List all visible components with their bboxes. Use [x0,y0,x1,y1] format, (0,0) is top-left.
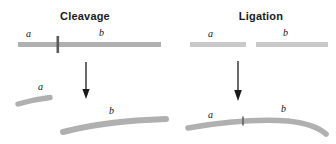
ligation-top-strand-b [256,42,328,47]
cleavage-top-strand-group [18,36,161,53]
label-cleavage-top-b: b [99,27,104,38]
ligation-arrow [234,61,242,101]
label-cleavage-product-a: a [38,81,43,92]
figure-canvas: Cleavage Ligation [0,0,336,144]
label-cleavage-product-b: b [109,105,114,116]
cleavage-arrow [82,62,89,99]
cleavage-product-a [18,98,50,105]
label-ligation-joined-a: a [208,109,213,120]
cleavage-site-tick [57,36,60,53]
label-ligation-top-a: a [208,28,213,39]
cleavage-top-strand [18,42,161,47]
label-cleavage-top-a: a [26,28,31,39]
strand-diagram-svg [0,0,336,144]
cleavage-product-b [63,119,166,132]
ligation-top-strand-a [190,42,246,47]
label-ligation-top-b: b [283,27,288,38]
label-ligation-joined-b: b [281,103,286,114]
